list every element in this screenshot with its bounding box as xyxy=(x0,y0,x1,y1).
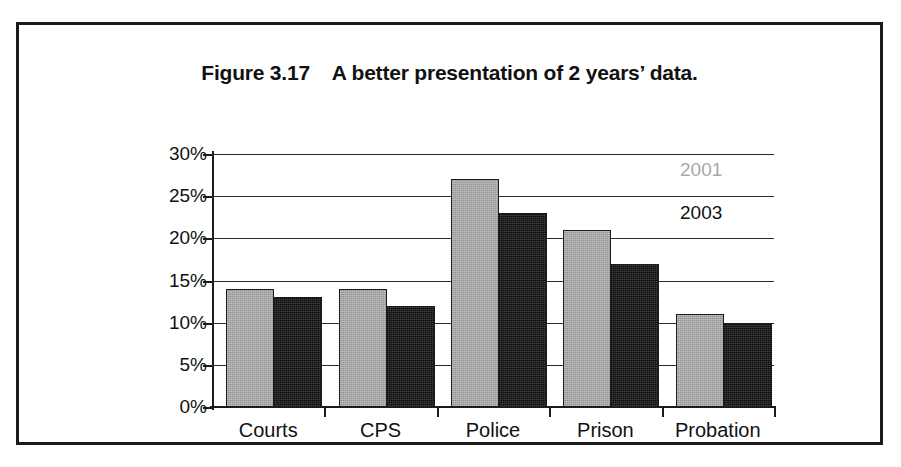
y-tick-mark xyxy=(203,365,212,367)
bars-layer xyxy=(212,154,774,407)
y-tick-label: 10% xyxy=(169,312,207,334)
x-tick-mark xyxy=(549,407,551,417)
bar-group xyxy=(451,154,547,407)
series-label-2001: 2001 xyxy=(680,159,722,181)
y-tick-mark xyxy=(203,407,212,409)
x-tick-mark xyxy=(437,407,439,417)
bar-courts-2003 xyxy=(274,297,322,407)
y-tick-label: 20% xyxy=(169,227,207,249)
y-tick-mark xyxy=(203,154,212,156)
x-tick-mark xyxy=(662,407,664,417)
x-tick-label-cps: CPS xyxy=(360,419,401,442)
x-tick-mark xyxy=(324,407,326,417)
x-tick-label-police: Police xyxy=(466,419,520,442)
figure-title: Figure 3.17 A better presentation of 2 y… xyxy=(19,61,880,85)
bar-probation-2001 xyxy=(676,314,724,407)
y-tick-label: 30% xyxy=(169,143,207,165)
series-label-2003: 2003 xyxy=(680,202,722,224)
bar-police-2001 xyxy=(451,179,499,407)
x-tick-mark xyxy=(774,407,776,417)
y-tick-mark xyxy=(203,323,212,325)
plot-area xyxy=(212,154,774,407)
bar-prison-2003 xyxy=(611,264,659,407)
bar-group xyxy=(339,154,435,407)
y-tick-mark xyxy=(203,238,212,240)
bar-courts-2001 xyxy=(226,289,274,407)
bar-cps-2001 xyxy=(339,289,387,407)
y-tick-mark xyxy=(203,281,212,283)
x-tick-label-prison: Prison xyxy=(577,419,634,442)
bar-group xyxy=(563,154,659,407)
bar-probation-2003 xyxy=(724,323,772,407)
bar-group xyxy=(226,154,322,407)
bar-group xyxy=(676,154,772,407)
bar-cps-2003 xyxy=(387,306,435,407)
x-axis-category-labels: CourtsCPSPolicePrisonProbation xyxy=(212,419,774,453)
x-tick-label-courts: Courts xyxy=(239,419,298,442)
y-tick-label: 15% xyxy=(169,270,207,292)
y-tick-label: 25% xyxy=(169,185,207,207)
x-tick-label-probation: Probation xyxy=(675,419,761,442)
y-tick-mark xyxy=(203,196,212,198)
bar-police-2003 xyxy=(499,213,547,407)
y-axis-tick-labels: 0%5%10%15%20%25%30% xyxy=(127,154,207,407)
figure-frame: Figure 3.17 A better presentation of 2 y… xyxy=(16,22,883,445)
bar-prison-2001 xyxy=(563,230,611,407)
